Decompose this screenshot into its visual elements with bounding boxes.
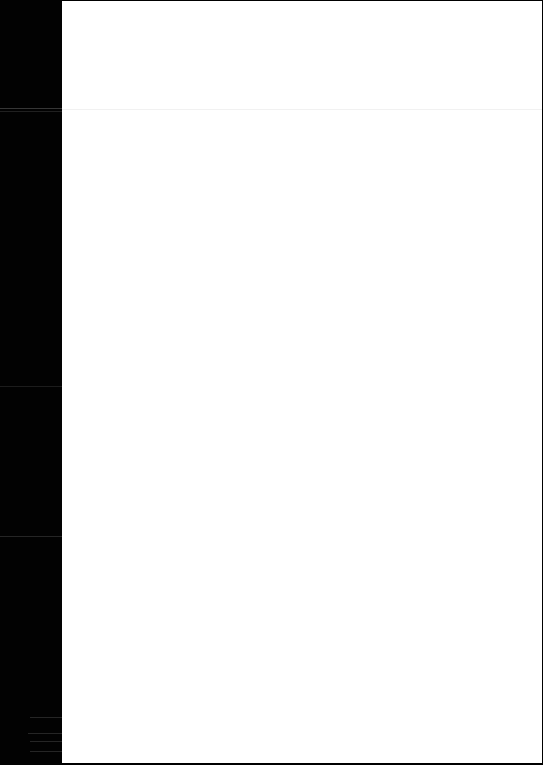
panel-divider — [0, 536, 62, 537]
panel-divider — [30, 717, 62, 718]
page-header — [62, 1, 542, 109]
blank-page[interactable] — [62, 1, 542, 763]
panel-divider — [30, 741, 62, 742]
panel-divider — [28, 733, 62, 734]
panel-divider — [30, 751, 62, 752]
left-dark-panel — [0, 0, 62, 765]
page-body[interactable] — [62, 110, 542, 763]
panel-divider — [0, 111, 62, 112]
panel-divider — [0, 108, 62, 109]
panel-divider — [0, 386, 62, 387]
screen — [0, 0, 543, 765]
